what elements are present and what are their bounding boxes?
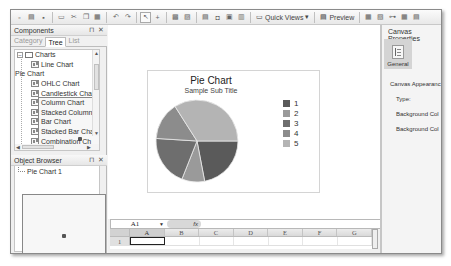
group-icon[interactable]: ◘ [212, 12, 223, 23]
column-header-c[interactable]: C [199, 229, 234, 236]
properties-title: Canvas Properties [382, 25, 442, 37]
row-header[interactable]: 1 [110, 237, 130, 245]
object-item-pie-chart-1[interactable]: Pie Chart 1 [15, 166, 99, 176]
save-icon[interactable]: ▪ [38, 12, 49, 23]
tree-item-label: Candlestick Char [41, 90, 94, 97]
components-header: Components ⊓ ✕ [11, 25, 107, 36]
undo-icon[interactable]: ↶ [110, 12, 121, 23]
cell-b1[interactable] [165, 237, 199, 245]
legend-swatch [283, 130, 290, 137]
cell-f1[interactable] [303, 237, 337, 245]
select-all-corner[interactable] [110, 229, 130, 236]
quick-views-button[interactable]: ▭ Quick Views ▾ [254, 12, 311, 23]
add-icon[interactable]: + [152, 12, 163, 23]
name-box[interactable]: A1 [111, 220, 159, 228]
grid-icon[interactable]: ▦ [399, 12, 410, 23]
close-icon[interactable]: ✕ [98, 156, 104, 164]
candlestick-chart-icon [31, 90, 39, 97]
sheet-grid: ABCDEFG 1 [110, 229, 372, 249]
collapse-icon[interactable]: − [17, 52, 23, 58]
scroll-left-icon[interactable]: ◀ [16, 144, 20, 150]
scrollbar-thumb[interactable] [22, 145, 54, 149]
column-chart-icon [31, 99, 39, 106]
print-icon[interactable]: ▭ [56, 12, 67, 23]
cell-c1[interactable] [200, 237, 234, 245]
tree-root-charts[interactable]: − Charts [15, 50, 99, 60]
tree-item-stacked-bar[interactable]: Stacked Bar Cha [15, 127, 99, 137]
tree-item-column-chart[interactable]: Column Chart [15, 98, 99, 108]
tab-category[interactable]: Category [12, 36, 44, 46]
tree-horizontal-scrollbar[interactable]: ◀ ▶ [14, 144, 100, 151]
sheet-vertical-scrollbar[interactable] [372, 229, 378, 249]
legend-label: 2 [294, 109, 298, 118]
formula-bar: A1 ▼ fx [110, 219, 384, 229]
cut-icon[interactable]: ✂ [68, 12, 79, 23]
fx-label: fx [193, 221, 198, 227]
tree-item-label: Stacked Bar Cha [41, 128, 94, 135]
main-toolbar: ▫ ▤ ▪ ▭ ✂ ❐ ▦ ↶ ↷ ↖ + ▩ ▨ ▤ ◘ ▣ ▥ ▭ Quic… [11, 10, 442, 25]
tree-item-pie-chart[interactable]: Pie Chart [15, 69, 99, 79]
tree-item-stacked-column[interactable]: Stacked Column [15, 108, 99, 118]
property-type[interactable]: Type: [390, 96, 441, 111]
column-header-g[interactable]: G [337, 229, 372, 236]
link-icon[interactable]: ⊶ [387, 12, 398, 23]
design-canvas[interactable]: Pie Chart Sample Sub Title 12345 [108, 25, 380, 215]
cell-e1[interactable] [269, 237, 303, 245]
legend-item: 5 [283, 138, 298, 148]
general-tab-button[interactable]: General [384, 39, 412, 69]
insert-function-button[interactable]: fx [167, 220, 201, 228]
layout-icon[interactable]: ▥ [236, 12, 247, 23]
toolbar-separator [250, 12, 251, 23]
publish-icon[interactable]: ▧ [375, 12, 386, 23]
send-back-icon[interactable]: ▨ [182, 12, 193, 23]
pin-icon[interactable]: ⊓ [89, 26, 94, 34]
scroll-up-icon[interactable]: ▲ [94, 50, 99, 56]
pie-plot [155, 99, 239, 183]
tab-tree[interactable]: Tree [45, 37, 65, 47]
select-icon[interactable]: ↖ [140, 12, 151, 23]
legend-swatch [283, 110, 290, 117]
tree-connector [18, 167, 25, 172]
cell-d1[interactable] [234, 237, 268, 245]
scroll-down-icon[interactable]: ▼ [94, 130, 99, 136]
new-icon[interactable]: ▫ [14, 12, 25, 23]
scroll-right-icon[interactable]: ▶ [87, 144, 91, 150]
table-icon[interactable]: ▤ [411, 12, 422, 23]
scrollbar-thumb[interactable] [94, 64, 99, 90]
property-section-canvas-appearance[interactable]: Canvas Appearanc [390, 81, 441, 96]
pie-chart-object[interactable]: Pie Chart Sample Sub Title 12345 [147, 70, 320, 193]
preview-button[interactable]: ▤ Preview [318, 12, 356, 23]
align-icon[interactable]: ▤ [200, 12, 211, 23]
toolbar-separator [106, 12, 107, 23]
column-header-f[interactable]: F [303, 229, 338, 236]
toolbar-separator [52, 12, 53, 23]
tree-item-bar-chart[interactable]: Bar Chart [15, 117, 99, 127]
insert-icon[interactable]: ▣ [224, 12, 235, 23]
tree-item-candlestick-chart[interactable]: Candlestick Char [15, 88, 99, 98]
column-header-b[interactable]: B [165, 229, 200, 236]
column-header-d[interactable]: D [234, 229, 269, 236]
paste-icon[interactable]: ▦ [92, 12, 103, 23]
copy-icon[interactable]: ❐ [80, 12, 91, 23]
tree-vertical-scrollbar[interactable]: ▲ ▼ [92, 50, 99, 136]
export-icon[interactable]: ▦ [363, 12, 374, 23]
sheet-row: 1 [110, 237, 372, 246]
tree-item-ohlc-chart[interactable]: OHLC Chart [15, 79, 99, 89]
pin-icon[interactable]: ⊓ [89, 156, 94, 164]
cell-g1[interactable] [338, 237, 372, 245]
redo-icon[interactable]: ↷ [122, 12, 133, 23]
legend-label: 4 [294, 129, 298, 138]
spreadsheet: A1 ▼ fx ABCDEFG 1 [108, 219, 380, 254]
column-header-a[interactable]: A [130, 229, 165, 236]
tab-list[interactable]: List [67, 36, 82, 46]
property-background-color[interactable]: Background Col [390, 111, 441, 126]
column-header-e[interactable]: E [268, 229, 303, 236]
cell-a1[interactable] [130, 237, 165, 245]
tree-item-line-chart[interactable]: Line Chart [15, 60, 99, 70]
tree-item-label: Pie Chart [15, 70, 44, 77]
bring-front-icon[interactable]: ▩ [170, 12, 181, 23]
property-background-color-2[interactable]: Background Col [390, 126, 441, 141]
close-icon[interactable]: ✕ [98, 26, 104, 34]
chevron-down-icon[interactable]: ▼ [159, 221, 165, 227]
open-icon[interactable]: ▤ [26, 12, 37, 23]
